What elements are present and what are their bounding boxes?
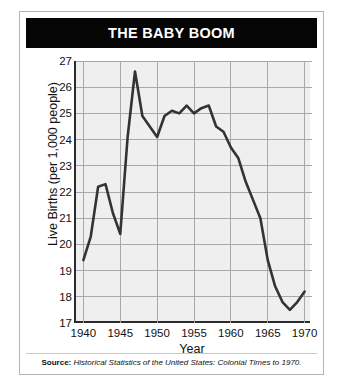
chart-canvas — [76, 61, 312, 323]
x-tick-1950: 1950 — [144, 327, 170, 339]
y-tick-20: 20 — [59, 238, 72, 250]
y-tick-27: 27 — [59, 55, 72, 67]
y-tick-18: 18 — [59, 291, 72, 303]
plot-area: 1718192021222324252627 19401945195019551… — [74, 61, 310, 323]
y-tick-26: 26 — [59, 81, 72, 93]
y-tick-23: 23 — [59, 160, 72, 172]
source-divider — [26, 353, 317, 354]
source-note: Source: Historical Statistics of the Uni… — [26, 358, 317, 367]
x-tick-1955: 1955 — [181, 327, 207, 339]
gridlines-group — [76, 61, 312, 323]
x-tick-1970: 1970 — [292, 327, 318, 339]
y-tick-19: 19 — [59, 265, 72, 277]
x-tick-1965: 1965 — [255, 327, 281, 339]
y-tick-24: 24 — [59, 134, 72, 146]
y-tick-21: 21 — [59, 212, 72, 224]
y-axis-label: Live Births (per 1,000 people) — [46, 54, 60, 274]
y-tick-25: 25 — [59, 107, 72, 119]
y-tick-22: 22 — [59, 186, 72, 198]
chart-title: THE BABY BOOM — [108, 25, 235, 41]
x-tick-1960: 1960 — [218, 327, 244, 339]
source-title: Historical Statistics of the United Stat… — [74, 358, 302, 367]
chart-title-bar: THE BABY BOOM — [26, 18, 317, 48]
x-tick-1940: 1940 — [71, 327, 97, 339]
chart-card: THE BABY BOOM Live Births (per 1,000 peo… — [19, 11, 324, 375]
x-tick-1945: 1945 — [107, 327, 133, 339]
chart-region: Live Births (per 1,000 people) 171819202… — [26, 53, 317, 351]
plot-inner — [76, 61, 310, 321]
source-label: Source: — [41, 358, 71, 367]
